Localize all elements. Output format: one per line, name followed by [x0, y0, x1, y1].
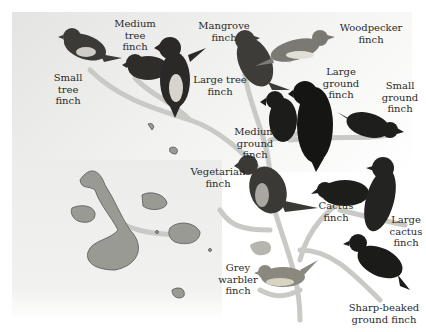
floreana-island [172, 288, 184, 298]
vegetarian-finch-bird [234, 155, 318, 219]
label-medium-tree-finch: Medium tree finch [110, 18, 160, 53]
label-woodpecker-finch: Woodpecker finch [336, 22, 406, 45]
label-medium-ground-finch: Medium ground finch [224, 126, 286, 161]
label-grey-warbler-finch: Grey warbler finch [218, 262, 258, 297]
label-small-tree-finch: Small tree finch [48, 72, 88, 107]
galapagos-islands [71, 123, 211, 298]
islet [148, 123, 154, 130]
grey-warbler-finch-bird [250, 241, 318, 287]
label-large-ground-finch: Large ground finch [320, 66, 362, 101]
label-large-tree-finch: Large tree finch [190, 74, 250, 97]
islet [156, 231, 159, 234]
islet [209, 249, 212, 252]
woodpecker-finch-bird [255, 30, 335, 66]
islet [169, 147, 177, 154]
label-mangrove-finch: Mangrove finch [196, 20, 252, 43]
fernandina-island [71, 206, 95, 223]
label-large-cactus-finch: Large cactus finch [386, 214, 426, 249]
santiago-island [142, 193, 167, 210]
label-vegetarian-finch: Vegetarian finch [190, 166, 246, 189]
santa-cruz-island [169, 223, 200, 244]
label-sharp-beaked-ground-finch: Sharp-beaked ground finch [344, 302, 424, 325]
label-small-ground-finch: Small ground finch [378, 80, 422, 115]
label-cactus-finch: Cactus finch [316, 200, 356, 223]
